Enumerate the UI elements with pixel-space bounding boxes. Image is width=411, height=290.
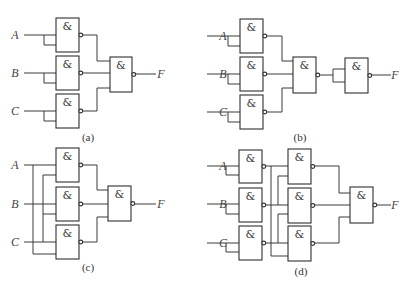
inversion-bubble-icon: [79, 202, 83, 206]
inversion-bubble-icon: [373, 203, 377, 207]
nand-gate: &: [345, 58, 372, 93]
nand-gate: &: [56, 56, 83, 90]
and-symbol: &: [357, 189, 367, 202]
wire: [266, 88, 293, 112]
and-symbol: &: [295, 151, 305, 164]
and-symbol: &: [352, 60, 362, 73]
wire: [278, 176, 288, 205]
input-label-c: C: [11, 104, 20, 118]
and-symbol: &: [247, 97, 257, 110]
and-symbol: &: [116, 59, 126, 72]
input-label-b: B: [11, 197, 19, 211]
and-symbol: &: [246, 228, 256, 241]
nand-gate: &: [239, 188, 266, 222]
inversion-bubble-icon: [79, 109, 83, 113]
and-symbol: &: [63, 58, 73, 71]
nand-gate: &: [56, 148, 83, 182]
inversion-bubble-icon: [131, 202, 135, 206]
inversion-bubble-icon: [79, 163, 83, 167]
inversion-bubble-icon: [79, 71, 83, 75]
and-symbol: &: [246, 152, 256, 165]
wire: [44, 111, 56, 121]
wire: [44, 35, 56, 45]
and-symbol: &: [115, 188, 125, 201]
inversion-bubble-icon: [263, 34, 267, 38]
wire: [314, 166, 350, 193]
input-label-a: A: [218, 29, 227, 43]
wire: [314, 217, 350, 243]
inversion-bubble-icon: [311, 242, 315, 246]
circuit-b: &&&&&ABCF(b): [207, 19, 399, 144]
wire: [228, 74, 240, 84]
nand-gate: &: [56, 187, 83, 221]
input-label-a: A: [218, 159, 227, 173]
circuit-d: &&&&&&&ABCF(d): [207, 149, 399, 278]
wire: [228, 36, 240, 46]
nand-gate: &: [288, 226, 315, 261]
nand-gate: &: [56, 94, 83, 128]
nand-gate: &: [239, 150, 266, 183]
output-label-f: F: [390, 68, 399, 82]
circuit-a: &&&&ABCF(a): [10, 18, 165, 144]
inversion-bubble-icon: [132, 73, 136, 77]
nand-gate: &: [110, 57, 136, 92]
nand-gate: &: [240, 57, 267, 91]
output-label-f: F: [156, 197, 165, 211]
nand-gate: &: [288, 149, 315, 184]
input-label-b: B: [219, 197, 227, 211]
and-symbol: &: [63, 96, 73, 109]
caption-a: (a): [82, 131, 95, 144]
and-symbol: &: [63, 227, 73, 240]
wire: [333, 75, 345, 82]
and-symbol: &: [300, 59, 310, 72]
and-symbol: &: [63, 150, 73, 163]
caption-c: (c): [82, 261, 95, 274]
wire: [43, 214, 56, 242]
wire: [319, 69, 345, 75]
wire: [43, 175, 56, 204]
wire: [33, 165, 56, 254]
circuit-c: &&&&ABCF(c): [10, 148, 165, 274]
inversion-bubble-icon: [262, 165, 266, 169]
nand-gate: &: [293, 57, 320, 93]
caption-d: (d): [295, 265, 308, 278]
circuit-canvas: &&&&ABCF(a)&&&&&ABCF(b)&&&&ABCF(c)&&&&&&…: [0, 0, 411, 290]
inversion-bubble-icon: [311, 165, 315, 169]
inversion-bubble-icon: [263, 72, 267, 76]
inversion-bubble-icon: [262, 203, 266, 207]
nand-gate: &: [240, 95, 267, 129]
input-label-c: C: [219, 236, 228, 250]
wire: [228, 112, 240, 122]
wire: [226, 204, 239, 214]
nand-gate: &: [56, 18, 83, 52]
input-label-b: B: [11, 66, 19, 80]
inversion-bubble-icon: [311, 204, 315, 208]
inversion-bubble-icon: [79, 33, 83, 37]
input-label-c: C: [219, 105, 228, 119]
and-symbol: &: [63, 20, 73, 33]
output-label-f: F: [390, 198, 399, 212]
nand-gate: &: [56, 225, 83, 259]
input-label-b: B: [219, 67, 227, 81]
wire: [82, 165, 108, 190]
logic-circuit-figure: &&&&ABCF(a)&&&&&ABCF(b)&&&&ABCF(c)&&&&&&…: [0, 0, 411, 290]
nand-gate: &: [288, 188, 315, 223]
nand-gate: &: [108, 186, 135, 221]
inversion-bubble-icon: [262, 241, 266, 245]
inversion-bubble-icon: [316, 73, 320, 77]
and-symbol: &: [295, 228, 305, 241]
input-label-a: A: [10, 28, 19, 42]
inversion-bubble-icon: [263, 110, 267, 114]
wire: [82, 35, 110, 61]
nand-gate: &: [239, 226, 266, 260]
wire: [82, 217, 108, 242]
inversion-bubble-icon: [79, 240, 83, 244]
inversion-bubble-icon: [368, 74, 372, 78]
and-symbol: &: [246, 190, 256, 203]
caption-b: (b): [294, 131, 307, 144]
wire: [226, 243, 239, 252]
nand-gate: &: [350, 187, 377, 223]
nand-gate: &: [240, 19, 267, 53]
and-symbol: &: [63, 189, 73, 202]
and-symbol: &: [247, 59, 257, 72]
